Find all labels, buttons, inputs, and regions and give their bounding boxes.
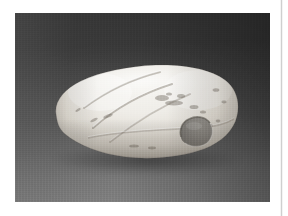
halftone-texture-vertical xyxy=(15,13,270,202)
scanned-page xyxy=(0,0,288,216)
page-margin-top xyxy=(0,0,288,13)
page-margin-left xyxy=(0,0,15,216)
page-column-divider xyxy=(281,0,282,216)
page-margin-bottom xyxy=(0,202,288,216)
page-margin-right xyxy=(270,0,288,216)
artifact-photograph xyxy=(15,13,270,202)
